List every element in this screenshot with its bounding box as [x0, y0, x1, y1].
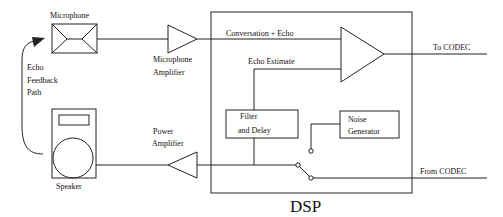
to-codec-label: To CODEC	[433, 42, 470, 54]
switch-terminal-noise	[309, 149, 313, 153]
speaker-label: Speaker	[56, 181, 82, 193]
power-amplifier-label-2: Amplifier	[152, 138, 184, 150]
echo-cancellation-diagram: Microphone Microphone Amplifier Echo Fee…	[0, 0, 503, 217]
from-codec-label: From CODEC	[420, 166, 466, 178]
echo-subtractor-icon	[341, 27, 384, 82]
noise-generator-label-2: Generator	[348, 126, 380, 138]
speaker-icon	[52, 109, 96, 178]
conversation-echo-label: Conversation + Echo	[226, 28, 294, 40]
feedback-arrowhead-icon	[32, 37, 45, 47]
filter-delay-label-2: and Delay	[238, 125, 271, 137]
microphone-amplifier-label-1: Microphone	[153, 54, 192, 66]
switch-arm	[300, 167, 310, 177]
microphone-amplifier-label-2: Amplifier	[153, 67, 185, 79]
power-amplifier-label-1: Power	[153, 126, 173, 138]
feedback-label-2: Feedback	[27, 75, 58, 87]
feedback-label-1: Echo	[27, 62, 43, 74]
dsp-title: DSP	[290, 198, 321, 216]
microphone-label: Microphone	[50, 10, 89, 22]
filter-delay-label-1: Filter	[240, 111, 257, 123]
microphone-icon	[52, 24, 97, 53]
microphone-amplifier-icon	[168, 25, 197, 53]
power-amplifier-icon	[168, 152, 197, 178]
noise-generator-label-1: Noise	[348, 114, 367, 126]
echo-estimate-label: Echo Estimate	[248, 56, 294, 68]
feedback-label-3: Path	[27, 87, 41, 99]
